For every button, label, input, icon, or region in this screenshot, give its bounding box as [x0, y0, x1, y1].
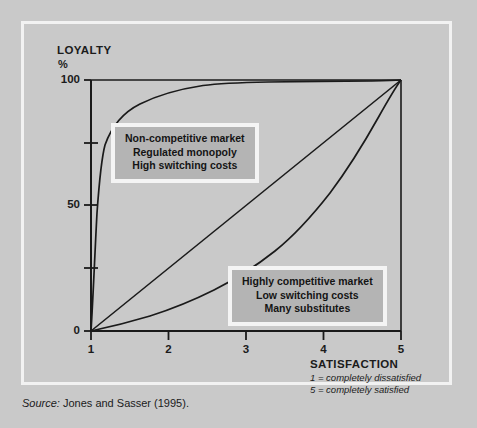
y-axis-title: LOYALTY — [57, 44, 112, 56]
x-axis-title: SATISFACTION — [310, 358, 398, 370]
y-tick-label-50: 50 — [38, 198, 80, 210]
x-tick-label-1: 1 — [81, 343, 101, 355]
x-tick-label-3: 3 — [236, 343, 256, 355]
callout-non-competitive-line-3: High switching costs — [125, 159, 245, 173]
source-caption: Source: Jones and Sasser (1995). — [22, 397, 189, 409]
scale-note-high: 5 = completely satisfied — [310, 384, 409, 395]
source-text: Jones and Sasser (1995). — [60, 397, 189, 409]
source-label: Source: — [22, 397, 60, 409]
callout-non-competitive-line-2: Regulated monopoly — [125, 146, 245, 160]
callout-highly-competitive-line-1: Highly competitive market — [242, 275, 373, 289]
callout-highly-competitive-line-2: Low switching costs — [242, 289, 373, 303]
y-tick-label-0: 0 — [38, 324, 80, 336]
x-tick-label-4: 4 — [314, 343, 334, 355]
scale-note-low: 1 = completely dissatisfied — [310, 372, 421, 383]
chart-plot-area — [0, 0, 477, 428]
figure-canvas: LOYALTY % SATISFACTION 100 50 0 1 2 3 4 … — [0, 0, 477, 428]
callout-highly-competitive-body: Highly competitive market Low switching … — [232, 270, 383, 322]
x-tick-label-5: 5 — [391, 343, 411, 355]
y-tick-label-100: 100 — [38, 73, 80, 85]
callout-highly-competitive-line-3: Many substitutes — [242, 302, 373, 316]
callout-highly-competitive: Highly competitive market Low switching … — [228, 266, 387, 326]
callout-non-competitive: Non-competitive market Regulated monopol… — [111, 123, 259, 183]
x-tick-label-2: 2 — [159, 343, 179, 355]
callout-non-competitive-body: Non-competitive market Regulated monopol… — [115, 127, 255, 179]
y-axis-unit-label: % — [58, 58, 68, 70]
callout-non-competitive-line-1: Non-competitive market — [125, 132, 245, 146]
